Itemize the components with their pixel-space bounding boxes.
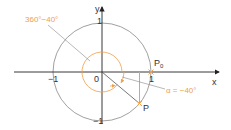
radius-op [102,72,140,104]
unit-circle-diagram: y x 0 1 −1 −1 1 P0 P 360°−40° α = −40° [0,0,231,130]
large-angle-arrow-icon [110,86,115,87]
y-tick-neg: −1 [93,116,103,126]
point-p-label: P [143,103,149,113]
y-axis-label: y [95,4,100,14]
large-angle-leader [48,25,90,61]
origin-label: 0 [94,74,99,84]
x-tick-neg: −1 [48,74,58,84]
small-angle-label: α = −40° [166,86,197,95]
y-tick-pos: 1 [97,16,102,26]
x-axis-label: x [212,77,217,87]
x-tick-pos: 1 [149,74,154,84]
point-p0-label: P0 [154,58,164,69]
small-angle-leader [122,77,165,89]
large-angle-label: 360°−40° [25,15,58,24]
